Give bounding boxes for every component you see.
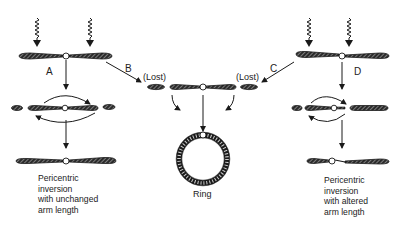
lost-label-left: (Lost) [143,73,166,82]
label-b: B [125,64,132,74]
lost-label-right: (Lost) [236,73,259,82]
chromosome-right-broken [292,105,388,111]
chromosome-left-broken [12,105,116,111]
caption-right: Pericentric inversion with altered arm l… [324,175,368,217]
arrow-c [262,62,294,82]
chromosome-right-result [307,158,389,164]
rotation-arrow-bottom-right [309,114,345,122]
label-a: A [46,67,53,77]
chromosome-left-original [19,53,112,59]
chromosome-right-original [296,51,389,59]
radiation-arrow-right-1 [305,18,313,47]
label-d: D [354,67,361,77]
rotation-arrow-top-left [44,96,90,104]
ring-chromosome [176,132,230,186]
ring-label: Ring [193,190,212,199]
centromere [63,53,69,59]
rotation-arrow-top-right [311,97,346,104]
radiation-arrow-left-1 [33,18,41,47]
caption-left: Pericentric inversion with unchanged arm… [38,173,98,215]
radiation-arrow-right-2 [345,18,353,47]
arrow-b [106,62,141,82]
radiation-arrow-left-2 [86,18,94,47]
join-arrow-left [172,95,180,110]
chromosome-left-result [16,157,116,164]
chromosome-middle-broken [148,84,258,90]
label-c: C [270,64,277,74]
join-arrow-right [226,95,234,110]
